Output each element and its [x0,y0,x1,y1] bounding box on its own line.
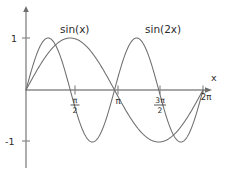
pi-half-numerator: π [73,96,78,105]
x-tick-label-2pi: 2π [201,92,212,102]
trigonometric-plot-figure: sin(x) sin(2x) x 1 -1 π 2 π 3π 2 2π [0,0,227,174]
x-axis-label: x [211,72,217,83]
x-tick-label-3pi-half: 3π 2 [154,96,166,115]
y-tick-label-one: 1 [11,33,17,44]
curve-label-sin-2x: sin(2x) [145,23,181,35]
three-pi-half-denominator: 2 [158,106,163,115]
y-axis [22,6,30,168]
plot-canvas: sin(x) sin(2x) x 1 -1 π 2 π 3π 2 2π [0,0,227,174]
x-axis [26,86,212,95]
curve-label-sin-x: sin(x) [60,23,89,35]
y-tick-label-negative-one: -1 [5,136,14,147]
three-pi-half-numerator: 3π [155,96,165,105]
x-tick-label-pi-half: π 2 [71,96,80,115]
y-axis-arrowhead [23,6,29,12]
x-tick-label-pi: π [115,96,120,106]
pi-half-denominator: 2 [73,106,78,115]
